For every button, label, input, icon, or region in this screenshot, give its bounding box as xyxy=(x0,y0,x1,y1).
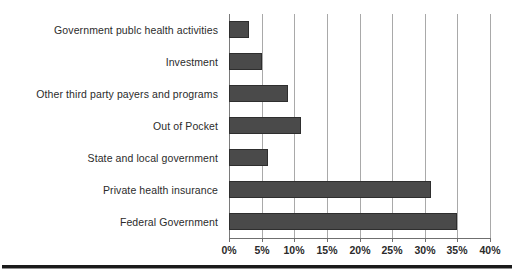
bar-row-government-publc-health-activities xyxy=(229,14,490,46)
bar-federal-government[interactable] xyxy=(229,213,457,230)
tick-label-40pct: 40% xyxy=(470,244,510,256)
category-label-government-public-health-activities: Government publc health activities xyxy=(0,24,218,36)
category-axis: Government publc health activities Inves… xyxy=(0,14,224,238)
tick-mark-10pct xyxy=(294,238,295,242)
gridline-40pct xyxy=(490,14,491,238)
page-divider-shadow xyxy=(2,268,512,269)
category-label-out-of-pocket: Out of Pocket xyxy=(0,120,218,132)
bar-investment[interactable] xyxy=(229,53,262,70)
category-label-federal-government: Federal Government xyxy=(0,216,218,228)
tick-mark-5pct xyxy=(262,238,263,242)
tick-mark-20pct xyxy=(360,238,361,242)
value-axis: 0%5%10%15%20%25%30%35%40% xyxy=(229,238,490,262)
bar-row-federal-government xyxy=(229,206,490,238)
tick-mark-15pct xyxy=(327,238,328,242)
bar-private-health-insurance[interactable] xyxy=(229,181,431,198)
tick-mark-0pct xyxy=(229,238,230,242)
category-label-investment: Investment xyxy=(0,56,218,68)
category-label-private-health-insurance: Private health insurance xyxy=(0,184,218,196)
bar-out-of-pocket[interactable] xyxy=(229,117,301,134)
bar-row-state-and-local-government xyxy=(229,142,490,174)
bar-row-private-health-insurance xyxy=(229,174,490,206)
bar-row-investment xyxy=(229,46,490,78)
bar-other-third-party-payers-and-programs[interactable] xyxy=(229,85,288,102)
bar-row-other-third-party-payers-and-programs xyxy=(229,78,490,110)
bar-row-out-of-pocket xyxy=(229,110,490,142)
tick-mark-30pct xyxy=(425,238,426,242)
tick-mark-40pct xyxy=(490,238,491,242)
bar-government-publc-health-activities[interactable] xyxy=(229,21,249,38)
category-label-state-and-local-government: State and local government xyxy=(0,152,218,164)
tick-mark-35pct xyxy=(457,238,458,242)
plot-area xyxy=(229,14,490,238)
bar-state-and-local-government[interactable] xyxy=(229,149,268,166)
horizontal-bar-chart: Government publc health activities Inves… xyxy=(0,0,516,280)
tick-mark-25pct xyxy=(392,238,393,242)
category-label-other-third-party-payers-and-programs: Other third party payers and programs xyxy=(0,88,218,100)
